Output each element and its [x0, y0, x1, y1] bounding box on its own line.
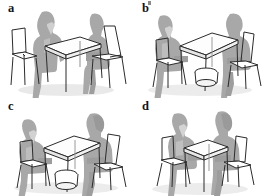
person-right-silhouette — [221, 14, 251, 98]
panel-b: b — [134, 0, 268, 98]
panel-a: a — [0, 0, 134, 98]
panel-label-a: a — [8, 2, 14, 14]
panel-d-illustration — [134, 98, 268, 196]
panel-label-b: b — [142, 2, 149, 14]
panel-c: c — [0, 98, 134, 196]
bin — [55, 170, 78, 190]
panel-d: d — [134, 98, 268, 196]
figure-panel-grid: a — [0, 0, 268, 196]
bin — [195, 68, 218, 87]
panel-c-illustration — [0, 98, 134, 196]
panel-label-d: d — [142, 100, 149, 112]
panel-b-illustration — [134, 0, 268, 98]
panel-label-c: c — [8, 100, 14, 112]
panel-a-illustration — [0, 0, 134, 98]
